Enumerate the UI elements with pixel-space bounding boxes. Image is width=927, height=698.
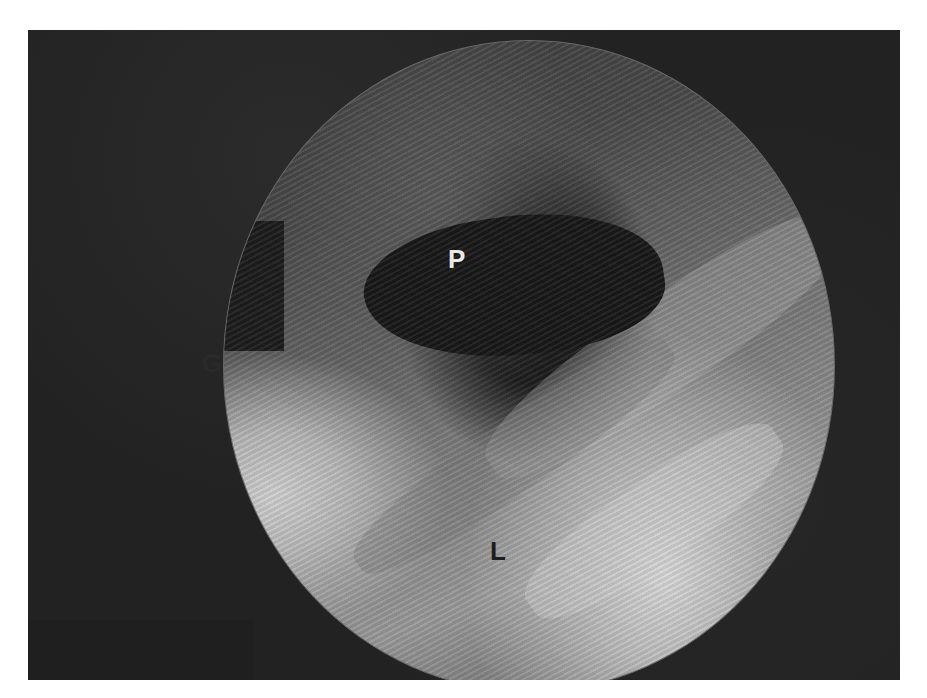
photo-frame (28, 30, 900, 680)
label-l: L (490, 538, 506, 564)
shadow-region (28, 620, 253, 680)
scan-line-texture (224, 41, 834, 680)
endoscope-field-of-view (223, 40, 835, 680)
label-g: G (202, 350, 222, 376)
label-p: P (448, 246, 465, 272)
